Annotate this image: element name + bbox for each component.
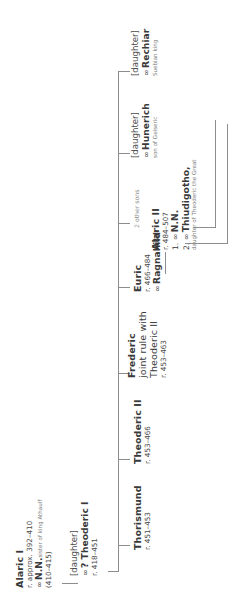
connector-euric: [118, 287, 130, 288]
daughter-theoderic-i-reign: r. 418–451: [91, 501, 99, 576]
connector-parent-stub: [108, 571, 119, 572]
node-frederic: Frederic joint rule with Theoderic II r.…: [126, 311, 168, 378]
node-daughter-rechiar: [daughter] ∞ Rechiar Suebian king: [131, 29, 158, 76]
marriage-icon: ∞: [81, 570, 90, 576]
frederic-note-line2: Theoderic II: [148, 311, 159, 378]
daughter-rechiar-spouse: Rechiar: [140, 29, 151, 68]
daughter-theoderic-i-marriage: ∞ ? Theoderic I: [80, 501, 91, 576]
alaric-ii-marriage-1-index: 1.: [171, 243, 180, 250]
other-sons-label: 2 other sons: [133, 189, 140, 228]
alaric-ii-marriage-2-note: daughter of Theoderic the Great: [191, 159, 197, 250]
thorismund-name: Thorismund: [132, 485, 143, 550]
connector-thorismund: [118, 545, 130, 546]
theoderic-ii-reign: r. 453–466: [144, 399, 152, 464]
euric-name: Euric: [132, 232, 143, 292]
alaric-i-marriage: ∞ N.N.sister of king Athaulf: [34, 500, 45, 588]
connector-alaric-ii-issue-2-run: [215, 120, 216, 228]
marriage-icon: ∞: [142, 70, 151, 76]
node-daughter-theoderic-i: [daughter] ∞ ? Theoderic I r. 418–451: [70, 501, 100, 576]
daughter-rechiar-marriage: ∞ Rechiar: [141, 29, 152, 76]
connector-daughter-hunerich: [118, 153, 130, 154]
daughter-theoderic-i-spouse: ? Theoderic I: [79, 501, 90, 567]
frederic-name: Frederic: [126, 311, 137, 378]
alaric-ii-reign: r. 484–507: [162, 159, 170, 250]
daughter-rechiar-spouse-note: Suebian king: [152, 29, 158, 76]
node-alaric-ii: Alaric II r. 484–507 1. ∞ N.N. 2. ∞ Thiu…: [150, 159, 198, 250]
alaric-ii-marriage-2-spouse: Thiudigotho,: [180, 166, 191, 232]
marriage-icon: ∞: [182, 235, 191, 241]
frederic-reign: r. 453–463: [160, 311, 168, 378]
connector-alaric-i-down: [62, 583, 78, 584]
daughter-hunerich-spouse: Hunerich: [140, 103, 151, 150]
node-other-sons: 2 other sons: [133, 189, 140, 228]
connector-alaric-ii-issue-2: [193, 227, 215, 228]
frederic-note-line1: joint rule with: [137, 311, 148, 378]
connector-alaric-ii-issue-1: [185, 243, 227, 244]
alaric-ii-marriage-1-spouse: N.N.: [169, 210, 180, 232]
daughter-hunerich-marriage: ∞ Hunerich: [141, 103, 152, 158]
node-alaric-i: Alaric I r. approx. 392–410 ∞ N.N.sister…: [14, 500, 54, 588]
connector-euric-to-alaric-ii: [165, 252, 166, 274]
node-daughter-hunerich: [daughter] ∞ Hunerich son of Geiseric: [131, 103, 158, 158]
connector-other-sons: [118, 223, 130, 224]
daughter-hunerich-spouse-note: son of Geiseric: [152, 103, 158, 158]
marriage-icon: ∞: [153, 286, 162, 292]
alaric-i-name: Alaric I: [14, 500, 25, 588]
connector-sibling-spine: [118, 72, 119, 572]
alaric-i-spouse-note: sister of king Athaulf: [37, 500, 43, 558]
thorismund-reign: r. 451–453: [144, 485, 152, 550]
alaric-i-spouse: N.N.: [33, 558, 44, 580]
marriage-icon: ∞: [35, 582, 44, 588]
alaric-i-spouse-dates: (410–415): [45, 500, 53, 588]
marriage-icon: ∞: [171, 235, 180, 241]
connector-alaric-ii-issue-1-run: [227, 124, 228, 244]
node-thorismund: Thorismund r. 451–453: [132, 485, 152, 550]
alaric-ii-name: Alaric II: [150, 159, 161, 250]
theoderic-ii-name: Theoderic II: [132, 399, 143, 464]
rotation-stage: Alaric I r. approx. 392–410 ∞ N.N.sister…: [0, 0, 240, 606]
alaric-ii-marriage-2: 2. ∞ Thiudigotho,: [181, 159, 192, 250]
connector-theoderic-ii: [118, 459, 130, 460]
connector-daughter-rechiar: [118, 71, 130, 72]
marriage-icon: ∞: [142, 152, 151, 158]
node-theoderic-ii: Theoderic II r. 453–466: [132, 399, 152, 464]
family-tree-diagram: Alaric I r. approx. 392–410 ∞ N.N.sister…: [0, 0, 240, 606]
